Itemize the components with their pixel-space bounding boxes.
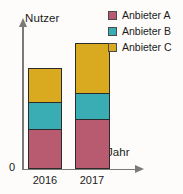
- legend-label-anbieter-b: Anbieter B: [122, 26, 171, 37]
- category-label-2017: 2017: [69, 174, 115, 186]
- legend-item-anbieter-c: Anbieter C: [108, 42, 172, 53]
- legend-label-anbieter-c: Anbieter C: [122, 42, 172, 53]
- bar-segment-anbieter-a-2017: [75, 119, 110, 169]
- bar-segment-anbieter-a-2016: [28, 129, 62, 170]
- legend-item-anbieter-a: Anbieter A: [108, 10, 172, 21]
- legend-swatch-icon-anbieter-c: [108, 43, 117, 52]
- legend-label-anbieter-a: Anbieter A: [122, 10, 170, 21]
- stacked-bar-chart: Nutzer Jahr 0 2016 2017 Anbieter A Anbie…: [0, 0, 183, 194]
- x-axis-arrow-icon: [135, 165, 144, 173]
- legend-swatch-icon-anbieter-b: [108, 27, 117, 36]
- bar-segment-anbieter-c-2017: [75, 43, 110, 93]
- bar-segment-anbieter-c-2016: [28, 68, 62, 102]
- legend-item-anbieter-b: Anbieter B: [108, 26, 172, 37]
- bar-segment-anbieter-b-2016: [28, 102, 62, 130]
- bar-segment-anbieter-b-2017: [75, 93, 110, 120]
- y-axis-line: [22, 26, 24, 170]
- chart-legend: Anbieter A Anbieter B Anbieter C: [108, 10, 172, 53]
- x-axis-label: Jahr: [107, 146, 130, 158]
- legend-swatch-icon-anbieter-a: [108, 11, 117, 20]
- bar-2016: [28, 68, 62, 169]
- origin-tick-label: 0: [9, 161, 15, 173]
- bar-2017: [75, 43, 110, 169]
- category-label-2016: 2016: [22, 174, 68, 186]
- y-axis-label: Nutzer: [25, 12, 59, 24]
